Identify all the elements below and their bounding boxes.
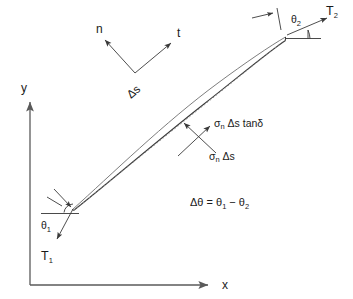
theta1-label: θ1 — [41, 219, 51, 234]
coordinate-axes — [30, 102, 208, 285]
x-axis-label: x — [222, 278, 228, 292]
left-cut-tick — [47, 197, 62, 206]
t2-tension-label: T2 — [326, 4, 338, 20]
right-cut-arrow — [252, 13, 273, 18]
tangent-unit-vector-arrow — [135, 43, 171, 73]
t1-tension-label: T1 — [41, 249, 53, 265]
arc-length-label: Δs — [124, 82, 142, 100]
normal-unit-vector-arrow — [105, 40, 135, 73]
normal-force-label: σn Δs — [209, 150, 235, 164]
right-end-annotations — [252, 8, 327, 39]
normal-unit-vector-label: n — [96, 22, 103, 36]
text-labels: x y n t T1 T2 θ1 θ2 Δs σn Δs tanδ σn Δs … — [21, 4, 338, 292]
belt-element-diagram: x y n t T1 T2 θ1 θ2 Δs σn Δs tanδ σn Δs … — [0, 0, 353, 299]
friction-force-label: σn Δs tanδ — [214, 117, 263, 131]
unit-vectors — [105, 40, 171, 73]
right-cut-tick — [277, 8, 281, 30]
delta-theta-equation: Δθ = θ1 − θ2 — [190, 196, 249, 211]
tangent-unit-vector-label: t — [177, 26, 181, 40]
diagram-canvas: x y n t T1 T2 θ1 θ2 Δs σn Δs tanδ σn Δs … — [0, 0, 353, 299]
friction-force-arrow — [178, 126, 210, 156]
left-cut-arrow — [54, 189, 71, 207]
normal-force-arrow — [184, 123, 216, 153]
theta2-label: θ2 — [291, 13, 301, 28]
y-axis-label: y — [21, 81, 27, 95]
